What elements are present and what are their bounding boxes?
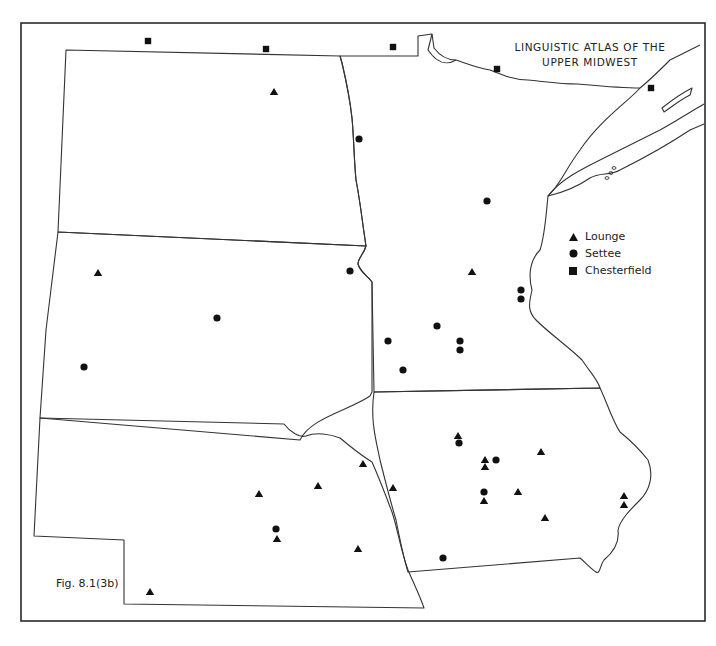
settee-markers: [80, 135, 524, 561]
figure-label: Fig. 8.1(3b): [56, 577, 119, 590]
chesterfield-marker: [390, 44, 396, 50]
lounge-marker: [273, 535, 281, 542]
lounge-markers: [94, 88, 628, 595]
chesterfield-marker: [648, 85, 654, 91]
settee-marker: [517, 295, 524, 302]
lounge-marker: [537, 448, 545, 455]
square-icon: [566, 267, 580, 275]
settee-marker: [272, 525, 279, 532]
legend-label-settee: Settee: [585, 247, 621, 260]
lounge-marker: [514, 488, 522, 495]
legend-item-settee: Settee: [566, 245, 652, 262]
settee-marker: [346, 267, 353, 274]
triangle-icon: [566, 233, 580, 241]
lake-superior-south-shore: [548, 104, 704, 196]
settee-marker: [455, 439, 462, 446]
lounge-marker: [354, 545, 362, 552]
settee-marker: [355, 135, 362, 142]
settee-marker: [213, 314, 220, 321]
legend: Lounge Settee Chesterfield: [566, 228, 652, 279]
settee-marker: [456, 346, 463, 353]
settee-marker: [399, 366, 406, 373]
state-minnesota: [340, 34, 640, 392]
lounge-marker: [389, 484, 397, 491]
legend-label-lounge: Lounge: [585, 230, 625, 243]
lounge-marker: [314, 482, 322, 489]
chesterfield-marker: [145, 38, 151, 44]
lounge-marker: [541, 514, 549, 521]
state-iowa: [373, 388, 651, 573]
state-south-dakota: [40, 232, 372, 440]
island-1: [612, 167, 616, 170]
lounge-marker: [620, 492, 628, 499]
chesterfield-marker: [263, 46, 269, 52]
atlas-title-line-2: UPPER MIDWEST: [500, 55, 680, 70]
legend-item-lounge: Lounge: [566, 228, 652, 245]
atlas-title: LINGUISTIC ATLAS OF THE UPPER MIDWEST: [500, 40, 680, 70]
island-3: [605, 177, 609, 180]
settee-marker: [384, 337, 391, 344]
map-frame: [21, 23, 705, 621]
lounge-marker: [146, 588, 154, 595]
lounge-marker: [359, 460, 367, 467]
atlas-title-line-1: LINGUISTIC ATLAS OF THE: [500, 40, 680, 55]
lounge-marker: [620, 501, 628, 508]
settee-marker: [433, 322, 440, 329]
state-north-dakota: [58, 50, 366, 246]
settee-marker: [492, 456, 499, 463]
lounge-marker: [454, 432, 462, 439]
settee-marker: [480, 488, 487, 495]
legend-item-chesterfield: Chesterfield: [566, 262, 652, 279]
lounge-marker: [480, 497, 488, 504]
settee-marker: [483, 197, 490, 204]
lake-superior-lower-shore: [548, 124, 704, 196]
lounge-marker: [468, 268, 476, 275]
lounge-marker: [94, 269, 102, 276]
lounge-marker: [481, 456, 489, 463]
map-canvas: [0, 0, 716, 646]
settee-marker: [80, 363, 87, 370]
settee-marker: [439, 554, 446, 561]
settee-marker: [517, 286, 524, 293]
circle-icon: [566, 249, 580, 258]
isle-royale: [662, 88, 692, 112]
lounge-marker: [481, 463, 489, 470]
lounge-marker: [270, 88, 278, 95]
lounge-marker: [255, 490, 263, 497]
settee-marker: [456, 337, 463, 344]
legend-label-chesterfield: Chesterfield: [585, 264, 652, 277]
